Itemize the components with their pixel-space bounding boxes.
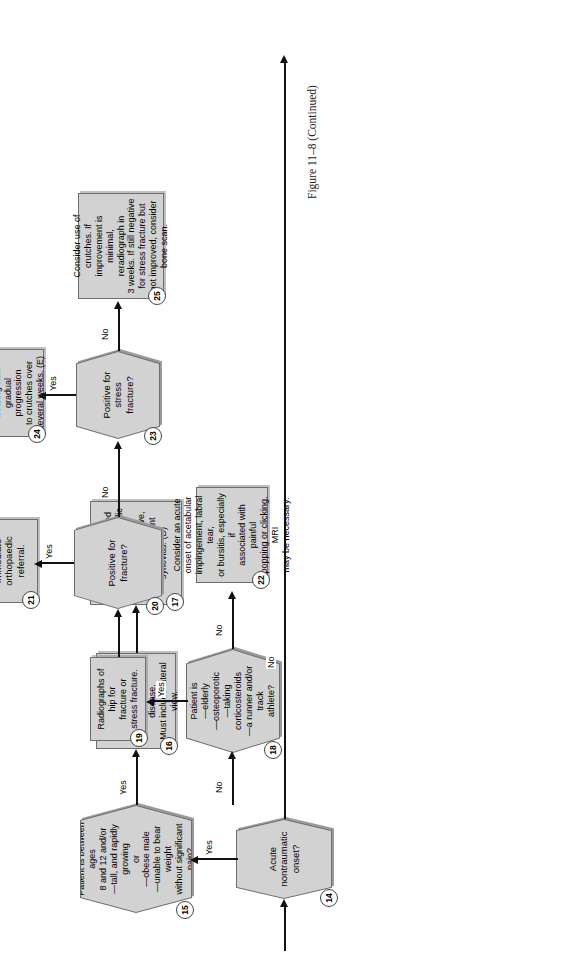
edge-23-yes-line	[44, 394, 76, 396]
edge-20-yes-arrowhead	[34, 560, 42, 568]
node-25-number-badge: 25	[148, 287, 166, 305]
edge-18-yes-line	[152, 700, 188, 702]
edge-15-no-line	[232, 755, 234, 805]
entry-connector	[284, 903, 286, 951]
edge-15-no-arrowhead	[228, 751, 236, 759]
node-25-label: Consider use of crutches. If improvement…	[72, 198, 171, 294]
edge-20-no-label: No	[100, 485, 110, 499]
node-21-number-badge: 21	[22, 591, 40, 609]
node-17-number-badge: 17	[166, 593, 184, 611]
edge-20-yes-label: Yes	[44, 543, 54, 560]
figure-caption: Figure 11–8 (Continued)	[306, 85, 318, 199]
edge-18-yes-arrowhead	[146, 698, 154, 706]
edge-16-17-line	[136, 609, 138, 653]
edge-14-no-label: No	[266, 655, 276, 669]
edge-23-no-line	[118, 305, 120, 351]
edge-23-yes-arrowhead	[38, 392, 46, 400]
edge-18-yes-label: Yes	[156, 681, 166, 698]
flowchart-canvas: Acute nontraumatic onset? 14 Yes No Pati…	[0, 0, 577, 969]
edge-14-yes-arrowhead	[190, 856, 198, 864]
node-14-acute-nontraumatic-onset[interactable]: Acute nontraumatic onset?	[236, 819, 332, 899]
node-22-number-badge: 22	[252, 571, 270, 589]
edge-23-no-label: No	[100, 327, 110, 341]
edge-14-no-line	[284, 59, 286, 819]
node-25-crutches-reradiograph[interactable]: Consider use of crutches. If improvement…	[78, 193, 164, 299]
edge-15-yes-label: Yes	[118, 779, 128, 796]
entry-arrowhead	[280, 899, 288, 907]
edge-16-17-arrowhead	[132, 605, 140, 613]
node-23-positive-for-stress-fracture[interactable]: Positive for stress fracture?	[76, 351, 160, 439]
node-21-label: Immediate orthopaedic referral.	[0, 536, 26, 586]
edge-14-yes-line	[196, 858, 238, 860]
node-24-number-badge: 24	[28, 425, 46, 443]
edge-19-20-line	[118, 613, 120, 657]
node-23-label: Positive for stress fracture?	[77, 352, 159, 438]
node-22-label: Consider an acute onset of acetabular im…	[172, 492, 293, 578]
edge-18-no-arrowhead	[228, 591, 236, 599]
node-20-positive-for-fracture[interactable]: Positive for fracture?	[74, 517, 162, 609]
node-19-number-badge: 19	[130, 729, 148, 747]
node-15-number-badge: 15	[176, 901, 194, 919]
edge-19-20-arrowhead	[114, 609, 122, 617]
edge-15-yes-arrowhead	[132, 749, 140, 757]
edge-14-no-arrowhead	[280, 55, 288, 63]
edge-18-no-label: No	[214, 623, 224, 637]
node-22-acetabular-impingement[interactable]: Consider an acute onset of acetabular im…	[196, 487, 268, 583]
edge-14-yes-label: Yes	[204, 839, 214, 856]
edge-23-no-arrowhead	[114, 301, 122, 309]
edge-20-no-arrowhead	[114, 441, 122, 449]
node-16-number-badge: 16	[160, 737, 178, 755]
edge-20-no-line	[118, 445, 120, 517]
node-15-age-risk-decision[interactable]: Patient is between ages 8 and 12 and/or …	[80, 805, 192, 913]
edge-15-no-label: No	[214, 780, 224, 794]
node-23-number-badge: 23	[144, 427, 162, 445]
edge-18-no-line	[232, 595, 234, 649]
node-15-label: Patient is between ages 8 and 12 and/or …	[81, 806, 191, 912]
node-20-number-badge: 20	[146, 597, 164, 615]
edge-15-yes-line	[136, 753, 138, 805]
node-18-number-badge: 18	[264, 741, 282, 759]
node-20-label: Positive for fracture?	[75, 518, 161, 608]
node-14-label: Acute nontraumatic onset?	[237, 820, 331, 898]
node-19-label: Radiographs of hip for fracture or stres…	[96, 662, 140, 736]
node-14-number-badge: 14	[320, 889, 338, 907]
edge-23-yes-label: Yes	[48, 375, 58, 392]
edge-20-yes-line	[40, 562, 74, 564]
